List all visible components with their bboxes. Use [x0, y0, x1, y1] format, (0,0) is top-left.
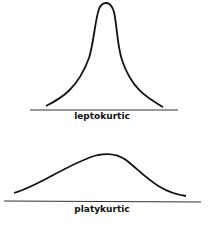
platykurtic-label: platykurtic	[52, 204, 152, 214]
leptokurtic-figure	[30, 3, 178, 110]
leptokurtic-label: leptokurtic	[52, 111, 152, 121]
leptokurtic-curve	[46, 3, 163, 107]
platykurtic-curve	[14, 154, 186, 196]
platykurtic-baseline	[4, 201, 201, 202]
platykurtic-figure	[4, 154, 201, 202]
